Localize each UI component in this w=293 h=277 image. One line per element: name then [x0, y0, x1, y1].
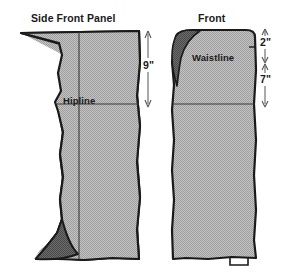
front-panel-fabric [172, 30, 256, 259]
side-front-panel-fabric [21, 31, 140, 260]
dimension-label-7in: 7" [260, 74, 271, 85]
pattern-diagram: Side Front Panel Front Hipline Waistline… [0, 0, 293, 277]
front-panel-title: Front [198, 13, 225, 24]
diagram-canvas [0, 0, 293, 277]
side-front-panel-shape [21, 31, 140, 260]
front-panel-shape [172, 30, 256, 265]
waistline-label: Waistline [192, 53, 234, 63]
dimension-label-2in: 2" [260, 37, 271, 48]
dimension-label-9in: 9" [143, 60, 154, 71]
side-front-panel-title: Side Front Panel [31, 13, 115, 24]
front-panel-bottom-notch [230, 258, 248, 265]
hipline-label: Hipline [63, 96, 95, 106]
dimension-arrow-7in [258, 64, 273, 107]
